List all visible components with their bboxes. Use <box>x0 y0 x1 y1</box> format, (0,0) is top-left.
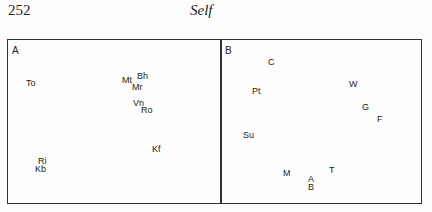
point-label: Mr <box>132 83 143 92</box>
page-number: 252 <box>8 2 31 19</box>
point-label: Kb <box>35 165 46 174</box>
point-label: F <box>377 115 383 124</box>
point-label: Pt <box>252 87 261 96</box>
panel-divider <box>220 39 222 204</box>
point-label: M <box>283 169 291 178</box>
panel-label-a: A <box>12 45 19 56</box>
point-label: G <box>362 103 369 112</box>
point-label: W <box>349 80 358 89</box>
panel-label-b: B <box>225 45 232 56</box>
point-label: Su <box>243 131 254 140</box>
point-label: Mt <box>122 76 132 85</box>
point-label: Bh <box>137 72 148 81</box>
figure-frame <box>7 39 422 204</box>
point-label: Kf <box>152 145 161 154</box>
point-label: B <box>308 183 314 192</box>
point-label: C <box>268 58 275 67</box>
running-head: Self <box>190 2 213 19</box>
point-label: T <box>329 166 335 175</box>
point-label: Ro <box>141 106 153 115</box>
point-label: To <box>26 79 36 88</box>
